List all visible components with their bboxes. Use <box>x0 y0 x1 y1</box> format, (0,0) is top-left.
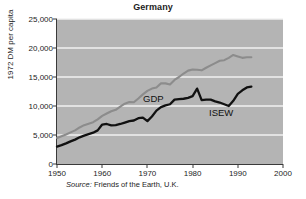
x-tick-mark <box>57 164 58 168</box>
x-tick-mark <box>283 164 284 168</box>
plot-area-wrapper: 05,00010,00015,00020,00025,000 195019601… <box>57 19 283 164</box>
x-tick-label: 2000 <box>274 169 292 178</box>
x-tick-mark <box>147 164 148 168</box>
source-text: Friends of the Earth, U.K. <box>92 180 179 189</box>
gridlines <box>57 19 283 135</box>
y-tick-label: 25,000 <box>29 15 53 24</box>
x-tick-mark <box>237 164 238 168</box>
x-tick-mark <box>192 164 193 168</box>
chart-title: Germany <box>0 2 306 12</box>
x-tick-mark <box>102 164 103 168</box>
y-tick-label: 5,000 <box>33 131 53 140</box>
x-tick-label: 1980 <box>184 169 202 178</box>
y-tick-label: 15,000 <box>29 73 53 82</box>
chart-figure: Germany 1972 DM per capita 05,00010,0001… <box>0 0 306 199</box>
chart-canvas <box>57 19 283 164</box>
y-tick-label: 10,000 <box>29 102 53 111</box>
series-label-gdp: GDP <box>143 93 164 104</box>
y-axis-title: 1972 DM per capita <box>6 0 15 111</box>
series-label-isew: ISEW <box>209 107 233 118</box>
source-prefix: Source: <box>66 180 92 189</box>
y-tick-label: 20,000 <box>29 44 53 53</box>
x-tick-label: 1970 <box>138 169 156 178</box>
x-tick-label: 1960 <box>93 169 111 178</box>
source-note: Source: Friends of the Earth, U.K. <box>66 180 179 189</box>
x-tick-label: 1990 <box>229 169 247 178</box>
x-axis-line <box>56 164 283 165</box>
x-tick-label: 1950 <box>48 169 66 178</box>
